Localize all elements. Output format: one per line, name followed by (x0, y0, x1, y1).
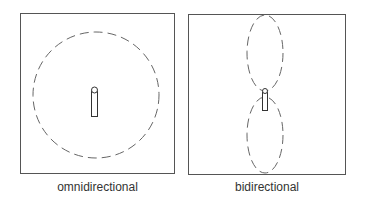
antenna-icon (92, 87, 98, 117)
bidirectional-panel (189, 15, 346, 175)
caption-omnidirectional: omnidirectional (20, 180, 175, 194)
omnidirectional-panel (21, 14, 175, 174)
caption-bidirectional: bidirectional (188, 180, 346, 194)
diagram-canvas (0, 0, 367, 202)
antenna-icon (263, 89, 268, 111)
radiation-lobe-top (247, 15, 283, 91)
